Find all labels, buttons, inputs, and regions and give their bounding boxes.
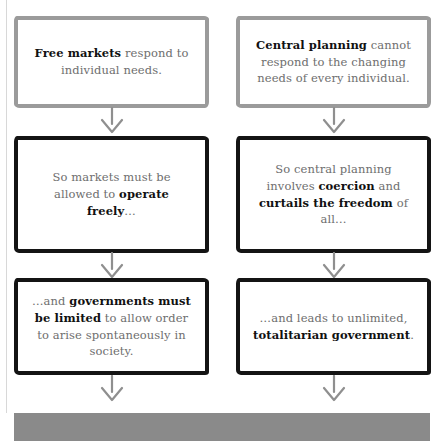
arrow-down-icon	[319, 375, 349, 405]
flowchart-diagram: Free markets respond to individual needs…	[0, 0, 444, 441]
flow-box-text: So central planning involves coercion an…	[250, 161, 417, 228]
flow-box-text: …and leads to unlimited, totalitarian go…	[250, 310, 417, 343]
flow-box-text: Central planning cannot respond to the c…	[250, 37, 417, 87]
flow-box-text: …and governments must be limited to allo…	[28, 293, 195, 360]
flow-column-free-markets: Free markets respond to individual needs…	[14, 0, 223, 413]
flow-box-text: Free markets respond to individual needs…	[28, 45, 195, 78]
flow-box-text: So markets must be allowed to operate fr…	[28, 169, 195, 219]
flow-box-central-planning-coercion: So central planning involves coercion an…	[236, 136, 431, 253]
arrow-down-icon	[97, 107, 127, 137]
arrow-down-icon	[97, 375, 127, 405]
flow-column-central-planning: Central planning cannot respond to the c…	[236, 0, 444, 413]
flow-box-totalitarian-government: …and leads to unlimited, totalitarian go…	[236, 278, 431, 375]
flow-box-free-markets-respond: Free markets respond to individual needs…	[14, 16, 209, 108]
flow-box-central-planning-cannot-respond: Central planning cannot respond to the c…	[236, 16, 431, 108]
flow-box-governments-must-be-limited: …and governments must be limited to allo…	[14, 278, 209, 375]
bottom-bar	[14, 413, 430, 441]
arrow-down-icon	[319, 107, 349, 137]
flow-box-markets-operate-freely: So markets must be allowed to operate fr…	[14, 136, 209, 253]
